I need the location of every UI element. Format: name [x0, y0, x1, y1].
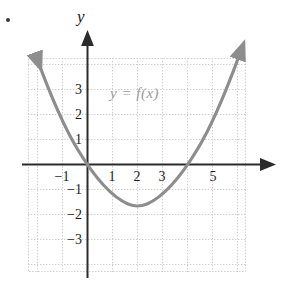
- y-tick-label: 2: [75, 108, 82, 122]
- y-tick-label: −1: [67, 183, 82, 197]
- curve-equation-label: y = f(x): [110, 85, 159, 102]
- x-tick-label: 5: [210, 170, 217, 184]
- x-tick-label: 1: [109, 170, 116, 184]
- y-tick-label: −3: [67, 233, 82, 247]
- y-tick-label: −2: [67, 208, 82, 222]
- coordinate-plane-svg: [0, 0, 284, 285]
- x-tick-label: 3: [159, 170, 166, 184]
- y-axis-label: y: [77, 8, 85, 25]
- y-tick-label: 3: [75, 83, 82, 97]
- y-tick-label: 1: [75, 133, 82, 147]
- graph-figure: y y = f(x) −1 1 2 3 5 3 2 1 −1 −2 −3: [0, 0, 284, 285]
- x-tick-label: 2: [134, 170, 141, 184]
